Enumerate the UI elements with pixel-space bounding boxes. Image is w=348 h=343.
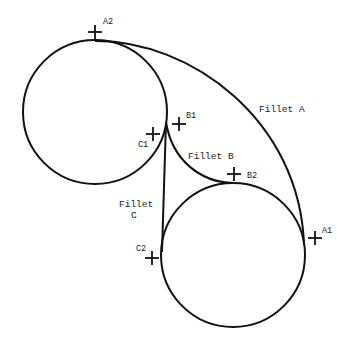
point-a1-label: A1 <box>322 226 332 236</box>
fillet-c-label-line1: Fillet <box>119 199 153 210</box>
circle-2 <box>161 183 305 327</box>
point-a2-label: A2 <box>103 17 113 27</box>
point-b2-label: B2 <box>247 171 257 181</box>
point-c2-marker <box>145 251 159 265</box>
point-c1-label: C1 <box>138 140 148 150</box>
point-c1-marker <box>146 127 160 141</box>
fillet-c-label-line2: C <box>131 210 137 221</box>
fillet-a-arc <box>95 41 304 245</box>
circle-1 <box>23 40 167 184</box>
point-b1-marker <box>172 117 186 131</box>
point-c2-label: C2 <box>136 244 146 254</box>
point-a2-marker <box>88 25 102 39</box>
point-b2-marker <box>227 167 241 181</box>
fillet-diagram: A2 B1 C1 B2 A1 C2 Fillet A Fillet B Fill… <box>0 0 348 343</box>
point-b1-label: B1 <box>186 111 196 121</box>
point-a1-marker <box>308 231 322 245</box>
fillet-b-label: Fillet B <box>188 151 234 162</box>
fillet-a-label: Fillet A <box>259 104 305 115</box>
